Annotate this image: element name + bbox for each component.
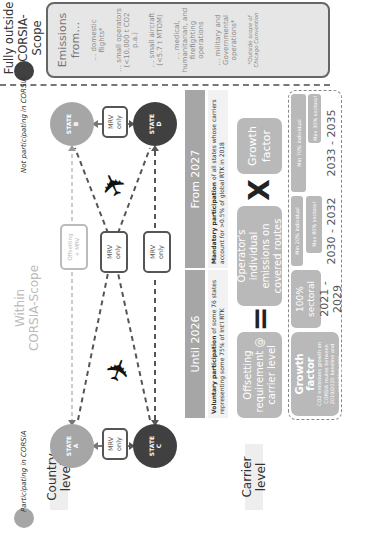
corsia-scope-diagram: Participating in CORSIA Not participatin…: [0, 0, 375, 538]
growth-factor-desc: CO2 emissions growth on CORSIA routes be…: [316, 335, 342, 413]
state-d-circle: STATE D: [133, 102, 177, 146]
outside-scope-header: Fully outside CORSIA-Scope: [4, 0, 44, 76]
not-participating-label: Not participating in CORSIA: [20, 77, 28, 173]
growth-factor-title: Growth factor: [294, 335, 316, 413]
outside-item: … small aircraft (<5.7 t MTOM): [148, 7, 164, 73]
outside-scope-title: Emissions from…: [56, 7, 82, 73]
outside-item: … small operators (<10,000 t CO2 p.a.): [115, 7, 139, 73]
growth-factor-box: Growth factor: [237, 118, 282, 174]
state-b-circle: STATE B: [50, 102, 94, 146]
state-a-circle: STATE A: [50, 424, 94, 468]
equals-sign: =: [237, 308, 282, 330]
period-2033-2035-item: Min 70% individual: [291, 94, 306, 192]
phase-header-until-2026: Until 2026: [185, 270, 205, 418]
phase-desc-until-2026: Voluntary participation of some 76 state…: [208, 270, 228, 418]
period-2033-2035-label: 2033 - 2035: [324, 94, 338, 192]
outside-scope-box: Emissions from… … domestic flights* … sm…: [46, 2, 330, 78]
state-c-circle: STATE C: [133, 424, 177, 468]
phase-header-from-2027: From 2027: [185, 90, 205, 268]
route-ab-offsetting-box: Offsetting + MRV: [60, 224, 88, 270]
route-ac-mrv-box: MRV only: [102, 428, 128, 460]
multiply-sign: X: [237, 178, 282, 202]
operator-emissions-box: Operator's individual emissions on cover…: [237, 206, 282, 306]
route-cd-mrv-box: MRV only: [143, 231, 171, 273]
outside-footnote: *Outside scope of Chicago Convention: [247, 7, 259, 73]
outside-item: … domestic flights*: [90, 7, 106, 73]
route-cross-mrv-box: MRV only: [100, 231, 128, 273]
phase-desc-from-2027: Mandatory participation of all states wh…: [208, 90, 228, 268]
period-2021-2029-item: 100% sectoral: [291, 270, 321, 328]
route-bd-mrv-box: MRV only: [102, 106, 128, 138]
outside-item: … military and Governmental operations*: [214, 7, 238, 73]
outside-item: … medical, humanitarian, and firefightin…: [173, 7, 205, 73]
growth-factor-detail-box: Growth factor CO2 emissions growth on CO…: [291, 332, 339, 416]
period-2030-2032-label: 2030 - 2032: [324, 196, 338, 266]
period-2030-2032-item: Min 20% individual: [291, 196, 303, 266]
period-2030-2032-item: Max 80% sectoral: [306, 196, 322, 253]
period-2033-2035-item: Max 30% sectoral: [308, 94, 321, 143]
period-2021-2029-label: 2021 - 2029: [324, 270, 338, 328]
route-lines: [0, 78, 200, 538]
offsetting-requirement-box: Offsetting requirement @ carrier level: [237, 332, 282, 418]
row-label-carrier: Carrier level: [245, 444, 263, 510]
